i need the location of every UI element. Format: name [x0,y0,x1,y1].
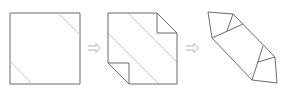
step-2-crease-lower [108,33,159,84]
step-3-bottom-flap-inner [252,46,263,80]
step-1-crease-top-right [58,13,80,35]
step-3-bottom-flap-base [258,57,275,62]
arrow-2-icon [186,44,199,53]
arrow-1-icon [88,44,101,53]
step-1-outline [10,13,80,84]
step-2-crease-upper [128,13,177,62]
step-3-hexagon [208,12,277,83]
step-2-outline [108,13,177,84]
step-3-outline [208,12,277,83]
step-2-folded-corners [108,13,177,84]
step-1-crease-bottom-left [10,61,32,84]
folding-diagram [0,0,283,100]
diagram-svg [0,0,283,100]
step-1-square [10,13,80,84]
